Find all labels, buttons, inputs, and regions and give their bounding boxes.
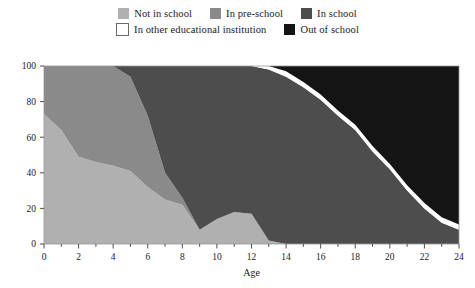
x-axis-title: Age [243, 267, 260, 278]
stacked-area-chart: 020406080100024681012141618202224Age [0, 0, 475, 288]
x-tick-label: 6 [145, 252, 150, 262]
x-tick-label: 24 [454, 252, 464, 262]
y-tick-label: 20 [27, 204, 37, 214]
y-tick-label: 80 [27, 97, 37, 107]
x-tick-label: 20 [385, 252, 395, 262]
y-tick-label: 100 [22, 61, 37, 71]
x-tick-label: 18 [351, 252, 361, 262]
x-tick-label: 2 [76, 252, 81, 262]
x-tick-label: 14 [281, 252, 291, 262]
x-tick-label: 16 [316, 252, 326, 262]
y-tick-label: 40 [27, 168, 37, 178]
x-tick-label: 0 [42, 252, 47, 262]
y-tick-label: 60 [27, 133, 37, 143]
x-tick-label: 8 [180, 252, 185, 262]
x-tick-label: 10 [212, 252, 222, 262]
y-tick-label: 0 [31, 239, 36, 249]
chart-plot-area: 020406080100024681012141618202224Age [0, 0, 475, 288]
x-tick-label: 4 [111, 252, 116, 262]
x-tick-label: 12 [247, 252, 257, 262]
x-tick-label: 22 [420, 252, 430, 262]
